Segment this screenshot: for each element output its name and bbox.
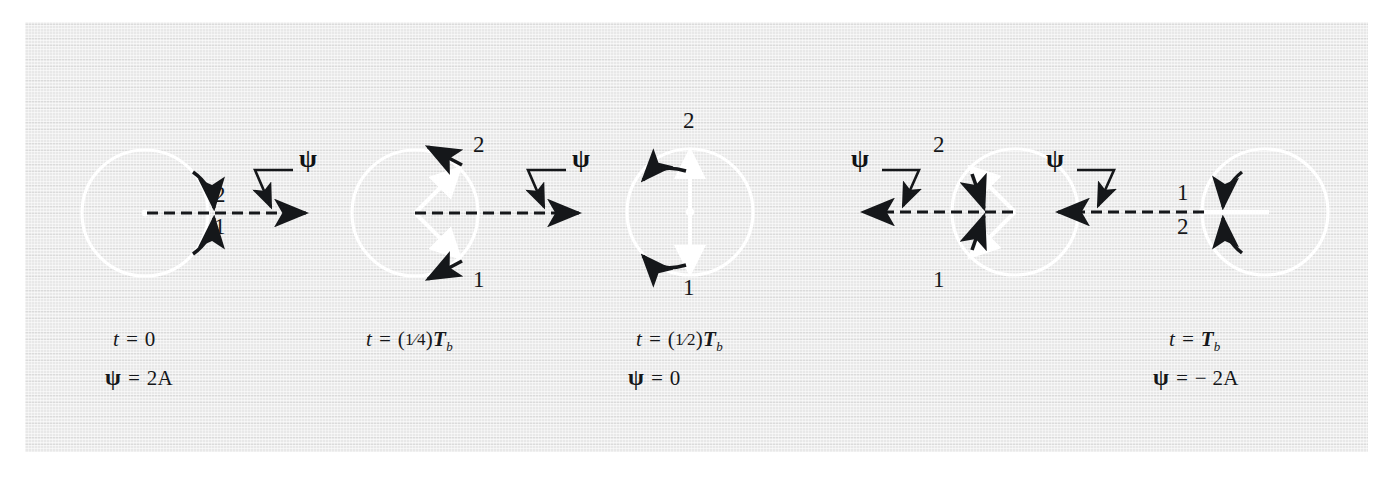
panel-2-time-caption: t = (1⁄4)Tb bbox=[366, 327, 453, 355]
panel-2-rotation-arrow-1 bbox=[428, 261, 462, 279]
panel-5-graphic bbox=[1058, 149, 1328, 275]
panel-3-frac-num: 1 bbox=[675, 330, 684, 349]
panel-4-label-lower: 1 bbox=[933, 267, 945, 293]
panel-1-caption-psi-glyph: ψ bbox=[105, 365, 121, 390]
panel-5-t-equals: t = bbox=[1169, 327, 1195, 351]
panel-2-T-sub: b bbox=[446, 339, 453, 354]
panel-3-t-equals: t = bbox=[636, 327, 662, 351]
panel-5-T-sub: b bbox=[1214, 339, 1221, 354]
panel-1-psi-equals: = bbox=[127, 366, 141, 390]
panel-2-graphic bbox=[352, 147, 579, 279]
panel-1-label-lower: 1 bbox=[214, 214, 226, 240]
panel-2-psi-symbol: ψ bbox=[572, 144, 590, 174]
panel-1-psi-caption: ψ = 2A bbox=[105, 365, 173, 391]
panel-5-time-caption: t = Tb bbox=[1169, 327, 1221, 355]
panel-3-caption-psi-glyph: ψ bbox=[628, 365, 644, 390]
panel-3-label-upper: 2 bbox=[683, 108, 695, 134]
panel-3-frac-den: 2 bbox=[687, 330, 696, 349]
panel-5-psi-value: − 2A bbox=[1195, 366, 1239, 390]
panel-1-time-value: 0 bbox=[145, 327, 156, 351]
panel-3-T: T bbox=[703, 327, 716, 351]
panel-4-psi-leader bbox=[882, 170, 919, 206]
panel-2-t-equals: t = bbox=[366, 327, 392, 351]
panel-5-rotation-arrow-up bbox=[1223, 218, 1242, 253]
panel-3-psi-caption: ψ = 0 bbox=[628, 365, 681, 391]
panel-5-psi-caption: ψ = − 2A bbox=[1153, 365, 1239, 391]
panel-2-label-upper: 2 bbox=[473, 132, 485, 158]
panel-4-psi-symbol: ψ bbox=[851, 144, 869, 174]
panel-2-frac-den: 4 bbox=[417, 330, 426, 349]
panel-1-psi-value: 2A bbox=[147, 366, 173, 390]
panel-2-label-lower: 1 bbox=[473, 267, 485, 293]
panel-5-psi-symbol: ψ bbox=[1046, 144, 1064, 174]
panel-3-graphic bbox=[627, 149, 753, 275]
panel-3-psi-equals: = bbox=[650, 366, 664, 390]
panel-5-label-upper: 1 bbox=[1177, 180, 1189, 206]
panel-1-t-equals: t = bbox=[113, 327, 139, 351]
panel-1-psi-leader bbox=[255, 170, 293, 207]
panel-3-label-lower: 1 bbox=[683, 275, 695, 301]
panel-1-psi-symbol: ψ bbox=[299, 144, 317, 174]
panel-5-psi-equals: = bbox=[1175, 366, 1189, 390]
panel-2-phasor-1 bbox=[415, 213, 460, 258]
panel-5-label-lower: 2 bbox=[1177, 214, 1189, 240]
panel-3-rotation-arrow-1 bbox=[643, 256, 686, 268]
panel-2-T: T bbox=[433, 327, 446, 351]
panel-5-psi-leader bbox=[1077, 170, 1114, 206]
panel-5-caption-psi-glyph: ψ bbox=[1153, 365, 1169, 390]
panel-1-label-upper: 2 bbox=[214, 182, 226, 208]
panel-1-graphic bbox=[82, 150, 306, 276]
panel-4-label-upper: 2 bbox=[933, 132, 945, 158]
panel-5-rotation-arrow-down bbox=[1223, 172, 1242, 207]
panel-2-phasor-2 bbox=[415, 169, 460, 214]
panel-5-T: T bbox=[1201, 327, 1214, 351]
panel-1-time-caption: t = 0 bbox=[113, 327, 156, 352]
panel-2-rotation-arrow-2 bbox=[428, 147, 462, 165]
panel-2-frac-num: 1 bbox=[405, 330, 414, 349]
panel-3-T-sub: b bbox=[716, 339, 723, 354]
panel-2-psi-leader bbox=[528, 170, 566, 207]
figure-panel: 2 1 2 1 2 1 2 1 1 2 ψ ψ ψ ψ t = 0 ψ = 2A… bbox=[25, 22, 1368, 452]
panel-3-psi-value: 0 bbox=[670, 366, 681, 390]
panel-3-time-caption: t = (1⁄2)Tb bbox=[636, 327, 723, 355]
panel-3-rotation-arrow-2 bbox=[643, 168, 686, 180]
